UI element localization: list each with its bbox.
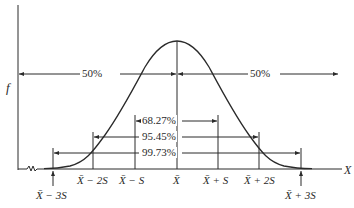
- normal-distribution-diagram: f X 50% 50% 68.27% 95.45% 99.73% X̄ − 2S…: [0, 0, 354, 208]
- interval-68-label: 68.27%: [141, 115, 177, 126]
- interval-95-label: 95.45%: [141, 131, 177, 142]
- right-half-label: 50%: [249, 68, 271, 79]
- x-axis-break-zigzag: [18, 166, 44, 171]
- left-half-label: 50%: [81, 68, 103, 79]
- tick-label-minus-3s: X̄ − 3S: [36, 190, 67, 201]
- tick-label-mean: X̄: [173, 175, 180, 186]
- interval-99-label: 99.73%: [141, 147, 177, 158]
- tick-label-plus-3s: X̄ + 3S: [285, 190, 316, 201]
- tick-label-minus-2s: X̄ − 2S: [77, 175, 108, 186]
- tick-label-plus-2s: X̄ + 2S: [244, 175, 275, 186]
- tick-label-plus-1s: X̄ + S: [203, 175, 228, 186]
- y-axis-label: f: [6, 81, 10, 94]
- tick-label-minus-1s: X̄ − S: [119, 175, 144, 186]
- x-axis-label: X: [344, 164, 351, 176]
- normal-curve: [44, 41, 312, 169]
